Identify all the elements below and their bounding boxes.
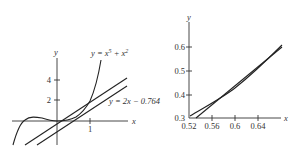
right-x-tick-label: 0.6 (230, 121, 241, 131)
right-y-tick-label: 0.5 (174, 66, 185, 76)
right-x-tick-label: 0.64 (251, 121, 267, 131)
line-2x-minus-0764-zoomed (196, 47, 282, 118)
right-y-axis-label: y (186, 12, 191, 22)
right-y-tick-label: 0.3 (174, 113, 185, 123)
right-y-tick-label: 0.6 (174, 42, 185, 52)
left-y-tick-label-2: 2 (47, 95, 51, 105)
figure: 1 2 4 y x y = x5 + x2 y = 2x − 0.764 0.5… (0, 0, 294, 148)
left-y-axis-label: y (53, 47, 58, 57)
right-x-axis-label: x (283, 113, 288, 123)
line-label: y = 2x − 0.764 (108, 96, 161, 106)
right-chart: 0.52 0.56 0.6 0.64 0.3 0.4 0.5 0.6 y x (174, 12, 288, 131)
right-y-tick-label: 0.4 (174, 90, 185, 100)
line-y-2x (25, 78, 127, 145)
curve-x5-plus-x2-zoomed (190, 45, 282, 116)
curve-label: y = x5 + x2 (90, 48, 128, 58)
left-x-axis-label: x (131, 116, 136, 126)
left-x-tick-label: 1 (88, 124, 92, 134)
left-chart: 1 2 4 y x y = x5 + x2 y = 2x − 0.764 (12, 47, 161, 145)
left-y-tick-label-4: 4 (47, 75, 52, 85)
right-x-tick-label: 0.56 (205, 121, 220, 131)
